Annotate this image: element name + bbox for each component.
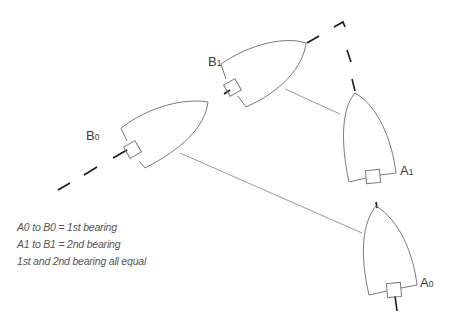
bearing-diagram: B0 B1 A1 A0 xyxy=(0,0,455,327)
label-a0: A0 xyxy=(420,275,434,290)
sight-lines xyxy=(180,89,362,233)
legend-line-3: 1st and 2nd bearing all equal xyxy=(17,255,146,267)
boat-b1 xyxy=(221,41,306,107)
boat-b0 xyxy=(121,101,208,168)
label-a1: A1 xyxy=(400,163,414,178)
legend-line-1: A0 to B0 = 1st bearing xyxy=(17,221,117,233)
label-b0: B0 xyxy=(86,128,100,143)
boat-a1 xyxy=(343,93,396,184)
bearing-line-1st xyxy=(180,153,362,233)
label-b1: B1 xyxy=(208,54,222,69)
boat-a0 xyxy=(363,206,417,298)
legend-line-2: A1 to B1 = 2nd bearing xyxy=(17,238,120,250)
bearing-line-2nd xyxy=(285,89,340,114)
